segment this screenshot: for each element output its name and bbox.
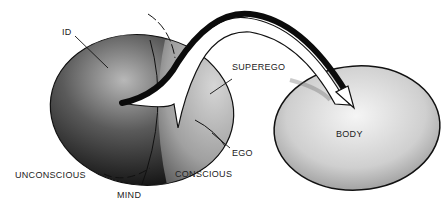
label-conscious: CONSCIOUS — [175, 169, 232, 179]
label-mind: MIND — [117, 190, 141, 200]
label-ego: EGO — [232, 148, 253, 158]
label-superego: SUPEREGO — [232, 62, 285, 72]
freud-mind-body-diagram: ID SUPEREGO EGO BODY UNCONSCIOUS CONSCIO… — [0, 0, 444, 210]
label-id: ID — [62, 27, 72, 37]
conscious-region — [158, 30, 260, 190]
body-ellipse — [270, 60, 444, 195]
label-unconscious: UNCONSCIOUS — [15, 170, 86, 180]
label-body: BODY — [336, 129, 363, 139]
